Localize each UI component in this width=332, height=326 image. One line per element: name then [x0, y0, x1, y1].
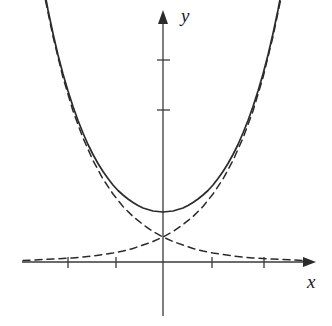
- x-axis-label: x: [307, 272, 315, 291]
- plot-canvas: [0, 0, 332, 326]
- y-axis-arrowhead: [158, 10, 168, 24]
- math-figure: y x: [0, 0, 332, 326]
- curve-exp-positive-dashed: [23, 1, 281, 261]
- y-axis-label: y: [181, 6, 189, 25]
- curve-exp-negative-dashed: [46, 1, 304, 261]
- axes-group: [22, 10, 316, 316]
- x-axis-arrowhead: [303, 257, 316, 267]
